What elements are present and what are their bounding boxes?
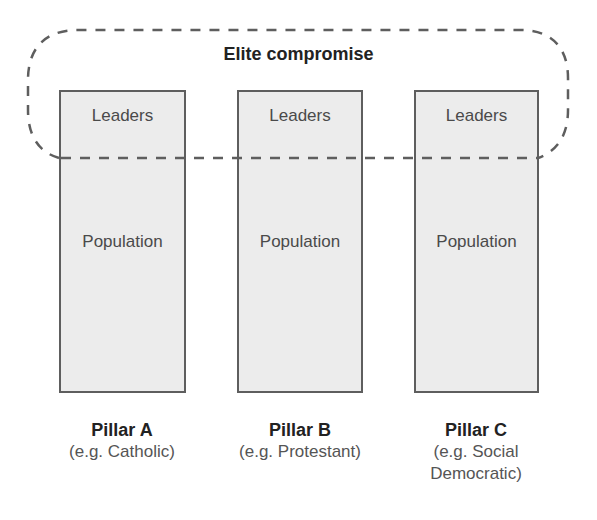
pillar-c-title: Pillar C [391,420,561,441]
pillar-c-example-line2: Democratic) [391,463,561,485]
pillar-b-title: Pillar B [215,420,385,441]
pillar-b-caption: Pillar B (e.g. Protestant) [215,420,385,463]
pillar-c-caption: Pillar C (e.g. Social Democratic) [391,420,561,485]
pillar-c-example-line1: (e.g. Social [391,441,561,463]
pillar-a-caption: Pillar A (e.g. Catholic) [37,420,207,463]
pillar-b-example: (e.g. Protestant) [215,441,385,463]
pillar-a-example: (e.g. Catholic) [37,441,207,463]
pillar-a-title: Pillar A [37,420,207,441]
